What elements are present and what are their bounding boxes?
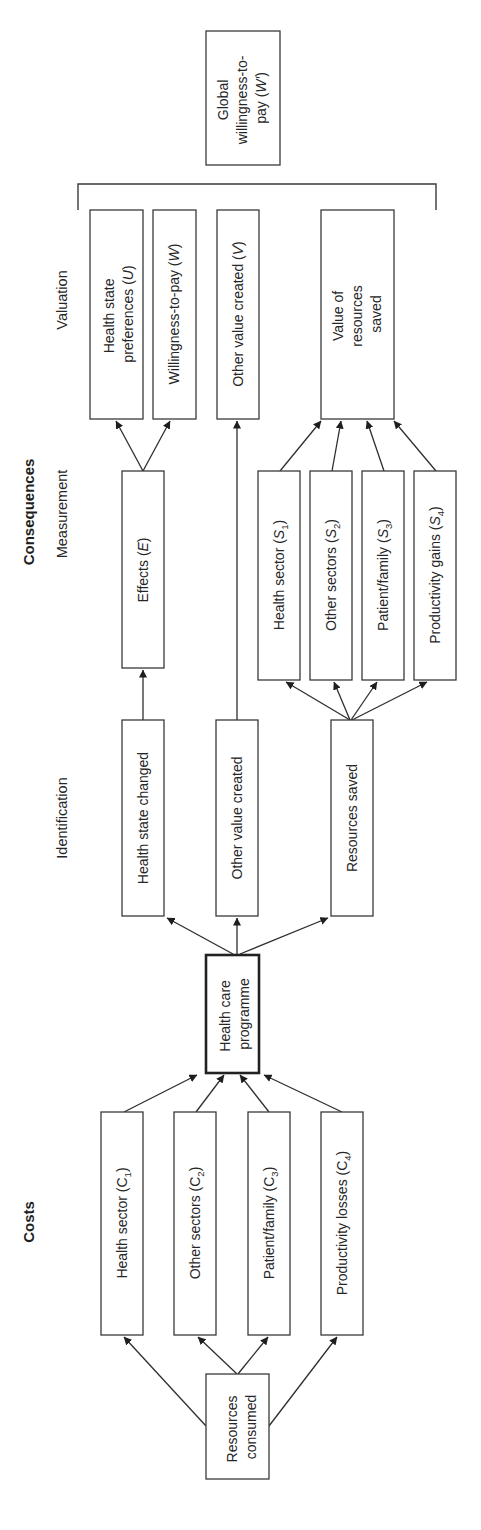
arrow-resources-consumed-to-cost-productivity-losses	[269, 1337, 337, 1426]
arrow-resources-consumed-to-cost-patient-family	[238, 1337, 268, 1374]
heading-costs: Costs	[20, 1201, 37, 1243]
svg-text:Other value created (V): Other value created (V)	[230, 241, 246, 387]
arrow-saved-other-sectors-to-value-of-resources-saved	[332, 421, 341, 471]
global-wtp-line2: willingness-to-	[234, 55, 250, 145]
arrow-cost-other-sectors-to-health-care-programme	[196, 1075, 224, 1112]
arrow-health-care-programme-to-health-state-changed	[167, 918, 233, 954]
heading-identification: Identification	[54, 777, 70, 858]
node-cost-health-sector[interactable]: Health sector (C1)	[101, 1112, 143, 1335]
arrow-saved-productivity-gains-to-value-of-resources-saved	[394, 421, 436, 471]
arrow-saved-health-sector-to-value-of-resources-saved	[280, 421, 321, 471]
arrow-effects-to-willingness-to-pay	[143, 421, 170, 471]
arrow-cost-patient-family-to-health-care-programme	[240, 1075, 269, 1112]
node-cost-patient-family[interactable]: Patient/family (C3)	[248, 1112, 290, 1335]
node-saved-health-sector[interactable]: Health sector (S1)	[258, 471, 300, 680]
global-wtp-symbol: W′	[253, 75, 269, 92]
nodes: Global willingness-to- pay (W′) Health s…	[90, 31, 456, 1479]
node-saved-other-sectors[interactable]: Other sectors (S2)	[310, 471, 352, 680]
cost-consequence-diagram: Valuation Consequences Measurement Ident…	[0, 0, 481, 1530]
global-wtp-line1: Global	[215, 80, 231, 120]
heading-valuation: Valuation	[54, 270, 70, 329]
heading-consequences: Consequences	[20, 459, 37, 566]
node-resources-saved[interactable]: Resources saved	[331, 720, 373, 916]
node-cost-productivity-losses[interactable]: Productivity losses (C4)	[321, 1112, 363, 1335]
svg-text:Willingness-to-pay (W): Willingness-to-pay (W)	[166, 244, 182, 385]
arrow-saved-patient-family-to-value-of-resources-saved	[367, 421, 384, 471]
arrow-resources-saved-to-saved-other-sectors	[334, 682, 350, 720]
node-other-value-created-valuation[interactable]: Other value created (V)	[217, 210, 259, 419]
svg-text:Resources saved: Resources saved	[344, 764, 360, 872]
arrow-health-care-programme-to-resources-saved	[240, 918, 328, 954]
svg-text:Health state changed: Health state changed	[135, 752, 151, 884]
arrow-cost-health-sector-to-health-care-programme	[124, 1075, 197, 1112]
global-wtp-line3-text: pay (	[253, 92, 269, 123]
heading-measurement: Measurement	[54, 470, 70, 559]
svg-text:Other value created: Other value created	[229, 757, 245, 880]
node-saved-productivity-gains[interactable]: Productivity gains (S4)	[414, 471, 456, 680]
node-willingness-to-pay[interactable]: Willingness-to-pay (W)	[153, 210, 196, 419]
arrow-effects-to-health-state-preferences	[116, 421, 143, 471]
node-resources-consumed[interactable]: Resources consumed	[206, 1374, 269, 1479]
arrow-resources-saved-to-saved-health-sector	[286, 682, 350, 720]
node-global-willingness-to-pay[interactable]: Global willingness-to- pay (W′)	[206, 31, 280, 165]
headings: Valuation Consequences Measurement Ident…	[20, 270, 70, 1243]
node-cost-other-sectors[interactable]: Other sectors (C2)	[174, 1112, 216, 1335]
node-health-care-programme[interactable]: Health care programme	[206, 955, 259, 1073]
arrow-resources-consumed-to-cost-health-sector	[124, 1337, 206, 1426]
node-health-state-preferences[interactable]: Health state preferences (U)	[90, 210, 143, 419]
valuation-bracket	[78, 184, 436, 210]
svg-text:Effects (E): Effects (E)	[135, 537, 151, 602]
arrow-resources-consumed-to-cost-other-sectors	[198, 1337, 237, 1374]
arrow-cost-productivity-losses-to-health-care-programme	[264, 1075, 342, 1112]
node-value-of-resources-saved[interactable]: Value of resources saved	[321, 210, 394, 419]
node-saved-patient-family[interactable]: Patient/family (S3)	[362, 471, 404, 680]
node-effects[interactable]: Effects (E)	[122, 471, 164, 668]
node-other-value-created-identification[interactable]: Other value created	[216, 720, 258, 916]
node-health-state-changed[interactable]: Health state changed	[122, 720, 164, 916]
